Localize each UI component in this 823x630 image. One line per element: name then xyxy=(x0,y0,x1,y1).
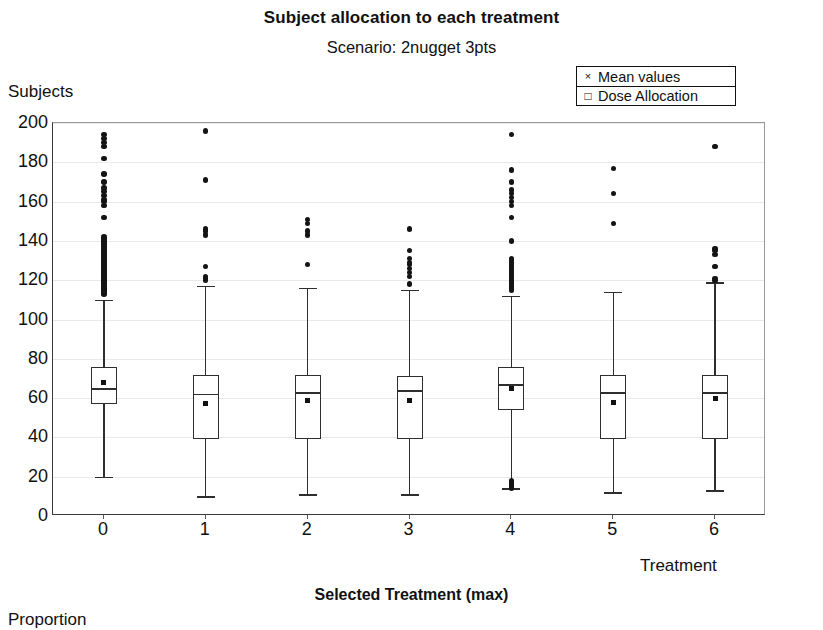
legend-label-dose-allocation: Dose Allocation xyxy=(594,88,698,104)
whisker-cap-upper xyxy=(299,288,317,289)
y-axis-tick-label: 80 xyxy=(4,347,48,368)
outlier-point xyxy=(712,264,717,269)
outlier-point xyxy=(305,262,310,267)
y-axis-tick-label: 40 xyxy=(4,426,48,447)
whisker-upper xyxy=(205,286,206,374)
whisker-cap-upper xyxy=(95,300,113,301)
outlier-point xyxy=(305,228,310,233)
x-axis-tick-label: 0 xyxy=(83,519,123,540)
outlier-point xyxy=(407,281,412,286)
outlier-point xyxy=(611,221,616,226)
whisker-cap-lower xyxy=(95,477,113,478)
mean-marker xyxy=(203,401,208,406)
x-axis-tick-mark xyxy=(205,515,206,519)
whisker-lower xyxy=(103,404,104,477)
x-axis-tick-mark xyxy=(714,515,715,519)
whisker-lower xyxy=(307,439,308,494)
median-line xyxy=(397,390,423,391)
outlier-point xyxy=(509,132,514,137)
gridline xyxy=(53,123,764,124)
y-axis-tick-label: 120 xyxy=(4,269,48,290)
whisker-lower xyxy=(613,439,614,492)
legend-item-mean-values: × Mean values xyxy=(577,67,735,86)
outlier-point xyxy=(509,167,514,172)
median-line xyxy=(91,388,117,389)
legend-item-dose-allocation: □ Dose Allocation xyxy=(577,86,735,105)
gridline xyxy=(53,202,764,203)
whisker-upper xyxy=(613,292,614,375)
whisker-upper xyxy=(103,300,104,367)
x-axis-tick-label: 2 xyxy=(287,519,327,540)
mean-marker xyxy=(407,398,412,403)
whisker-cap-upper xyxy=(502,296,520,297)
whisker-cap-lower xyxy=(604,492,622,493)
median-line xyxy=(600,392,626,393)
outlier-point xyxy=(101,156,106,161)
x-axis-tick-label: 6 xyxy=(694,519,734,540)
outlier-point xyxy=(101,171,106,176)
y-axis-tick-label: 20 xyxy=(4,465,48,486)
outlier-point xyxy=(101,215,106,220)
x-axis-tick-label: 5 xyxy=(592,519,632,540)
outlier-point xyxy=(611,191,616,196)
whisker-cap-lower xyxy=(197,496,215,497)
outlier-point xyxy=(101,234,106,239)
outlier-point xyxy=(407,226,412,231)
outlier-point xyxy=(712,144,717,149)
box-iqr xyxy=(397,376,423,439)
outlier-point xyxy=(101,179,106,184)
box-iqr xyxy=(702,375,728,440)
whisker-cap-upper xyxy=(197,286,215,287)
outlier-point xyxy=(101,185,106,190)
whisker-lower xyxy=(714,439,715,490)
gridline xyxy=(53,241,764,242)
y-axis-tick-label: 60 xyxy=(4,387,48,408)
x-axis-tick-mark xyxy=(510,515,511,519)
whisker-upper xyxy=(714,282,715,374)
whisker-cap-upper xyxy=(604,292,622,293)
whisker-lower xyxy=(511,410,512,489)
chart-subtitle: Scenario: 2nugget 3pts xyxy=(0,38,823,57)
outlier-point xyxy=(203,177,208,182)
whisker-cap-lower xyxy=(706,490,724,491)
y-axis-tick-label: 100 xyxy=(4,308,48,329)
outlier-point xyxy=(509,238,514,243)
mean-marker xyxy=(611,400,616,405)
median-line xyxy=(295,392,321,393)
x-axis-tick-label: 3 xyxy=(389,519,429,540)
whisker-upper xyxy=(307,288,308,374)
lower-panel-y-axis-title: Proportion xyxy=(8,610,86,630)
y-axis-tick-label: 140 xyxy=(4,229,48,250)
outlier-point xyxy=(509,215,514,220)
whisker-upper xyxy=(409,290,410,376)
outlier-point xyxy=(203,128,208,133)
outlier-point xyxy=(203,264,208,269)
x-axis-tick-mark xyxy=(409,515,410,519)
whisker-lower xyxy=(205,439,206,496)
x-axis-tick-label: 4 xyxy=(490,519,530,540)
y-axis-tick-label: 200 xyxy=(4,112,48,133)
x-axis-tick-label: 1 xyxy=(185,519,225,540)
outlier-point xyxy=(407,248,412,253)
y-axis-tick-labels: 020406080100120140160180200 xyxy=(0,122,48,515)
plot-area xyxy=(52,122,765,515)
mean-marker xyxy=(305,398,310,403)
x-marker-icon: × xyxy=(582,71,594,82)
legend: × Mean values □ Dose Allocation xyxy=(576,66,736,106)
box-iqr xyxy=(91,367,117,404)
outlier-point xyxy=(611,166,616,171)
y-axis-tick-label: 180 xyxy=(4,151,48,172)
y-axis-title: Subjects xyxy=(8,82,73,102)
chart-title: Subject allocation to each treatment xyxy=(0,8,823,28)
outlier-point xyxy=(509,187,514,192)
y-axis-tick-label: 160 xyxy=(4,190,48,211)
square-marker-icon: □ xyxy=(582,90,594,102)
outlier-point xyxy=(712,276,717,281)
outlier-point xyxy=(509,179,514,184)
y-axis-tick-label: 0 xyxy=(4,505,48,526)
legend-label-mean-values: Mean values xyxy=(594,69,680,85)
x-axis-tick-mark xyxy=(307,515,308,519)
median-line xyxy=(193,394,219,395)
x-axis-title: Treatment xyxy=(640,556,717,576)
